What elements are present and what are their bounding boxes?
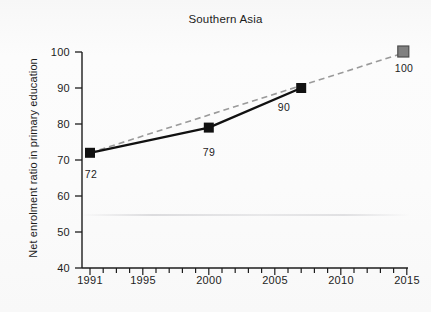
chart-figure: Southern Asia Net enrolment ratio in pri… bbox=[0, 0, 431, 312]
chart-plot-svg bbox=[0, 0, 431, 312]
marker-2000 bbox=[204, 123, 214, 133]
y-axis-ticks bbox=[75, 52, 82, 268]
x-axis-ticks bbox=[90, 268, 407, 275]
scan-artifact bbox=[80, 214, 410, 216]
marker-1991 bbox=[85, 148, 95, 158]
trend-line-dashed bbox=[90, 52, 407, 153]
marker-2015-target bbox=[398, 46, 409, 57]
marker-2007 bbox=[296, 83, 306, 93]
data-markers bbox=[85, 46, 409, 158]
axis-lines bbox=[82, 52, 408, 268]
